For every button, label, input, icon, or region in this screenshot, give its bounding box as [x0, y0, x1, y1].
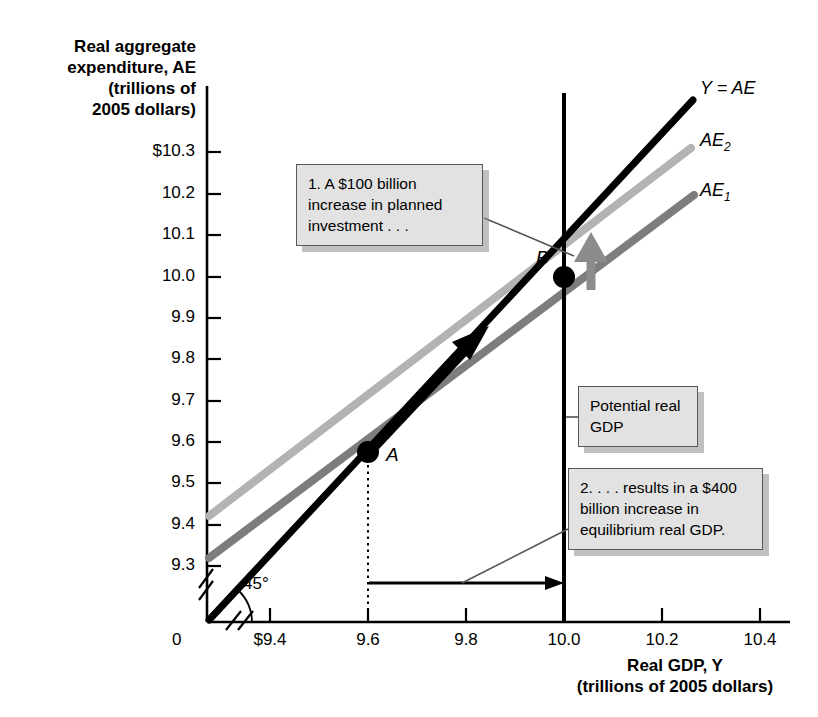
aggregate-expenditure-chart: Real aggregate expenditure, AE (trillion…: [0, 0, 818, 717]
y-tick-label: 10.1: [105, 224, 195, 244]
y-tick-label: 9.7: [105, 390, 195, 410]
curve-label-ae1-text: AE: [700, 180, 724, 200]
curve-label-ae1-subscript: 1: [724, 190, 731, 204]
x-tick-label: 10.0: [529, 630, 599, 650]
y-axis-title: Real aggregate expenditure, AE (trillion…: [18, 36, 196, 120]
y-tick-label: 9.6: [105, 431, 195, 451]
curve-label-ae2: AE2: [700, 130, 731, 154]
forty-five-degree-arc: [238, 590, 252, 622]
curve-label-ae2-subscript: 2: [724, 140, 731, 154]
origin-label: 0: [172, 630, 181, 650]
callout-potential-real-gdp: Potential real GDP: [578, 386, 698, 447]
gdp-increase-arrow: [369, 576, 564, 590]
x-tick-label: 10.2: [627, 630, 697, 650]
callout-2-leader-line: [462, 529, 568, 583]
callout-1-leader-line: [484, 218, 574, 256]
curve-label-ae2-text: AE: [700, 130, 724, 150]
callout-equilibrium-gdp-increase: 2. . . . results in a $400 billion incre…: [568, 468, 763, 550]
x-axis-title: Real GDP, Y (trillions of 2005 dollars): [540, 655, 810, 697]
y-tick-label: 9.8: [105, 348, 195, 368]
x-tick-label: 10.4: [725, 630, 795, 650]
x-axis-ticks: [270, 608, 760, 622]
x-tick-label: 9.8: [431, 630, 501, 650]
curve-label-ae1: AE1: [700, 180, 731, 204]
curve-label-y-equals-ae: Y = AE: [700, 78, 756, 99]
y-tick-label: 10.2: [105, 183, 195, 203]
x-tick-label: $9.4: [235, 630, 305, 650]
y-tick-label: 9.5: [105, 472, 195, 492]
y-tick-label: 9.9: [105, 307, 195, 327]
point-b-label: B: [536, 247, 549, 269]
forty-five-degree-label: 45°: [243, 574, 269, 594]
point-b-marker: [553, 266, 575, 288]
y-tick-label: 9.4: [105, 514, 195, 534]
point-a-marker: [357, 441, 379, 463]
y-tick-label: 10.0: [105, 266, 195, 286]
y-tick-label: 9.3: [105, 555, 195, 575]
point-a-label: A: [386, 444, 399, 466]
x-tick-label: 9.6: [333, 630, 403, 650]
y-tick-label: $10.3: [105, 141, 195, 161]
callout-planned-investment: 1. A $100 billion increase in planned in…: [296, 164, 483, 246]
